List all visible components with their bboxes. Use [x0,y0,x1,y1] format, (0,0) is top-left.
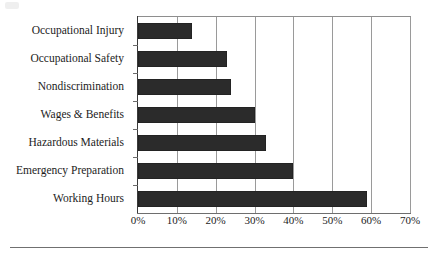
value-tick-label: 20% [206,214,226,226]
value-tick-label: 30% [244,214,264,226]
category-label: Nondiscrimination [0,72,132,100]
bar [138,23,192,38]
value-tick-label: 60% [361,214,381,226]
value-tick-label: 40% [283,214,303,226]
bar [138,79,231,94]
bar [138,135,266,150]
bar-row [138,107,410,122]
category-axis-labels: Occupational Injury Occupational Safety … [0,16,132,212]
category-label: Emergency Preparation [0,156,132,184]
plot-area [138,16,411,213]
category-label: Wages & Benefits [0,100,132,128]
bar [138,191,367,206]
value-tick-label: 0% [131,214,146,226]
bar [138,163,293,178]
category-label: Occupational Injury [0,16,132,44]
bar-row [138,79,410,94]
bar-row [138,51,410,66]
bar-series [138,17,410,213]
bar-row [138,191,410,206]
category-label: Working Hours [0,184,132,212]
value-tick-label: 70% [400,214,420,226]
bar-row [138,135,410,150]
bar-row [138,163,410,178]
bar [138,107,255,122]
category-label: Hazardous Materials [0,128,132,156]
bottom-divider-rule [10,247,428,248]
value-tick-label: 50% [322,214,342,226]
value-axis-tick-labels: 0%10%20%30%40%50%60%70% [138,214,410,230]
value-tick-label: 10% [167,214,187,226]
bar-row [138,23,410,38]
scan-artifact [5,2,19,9]
category-label: Occupational Safety [0,44,132,72]
gridline [410,17,411,213]
bar-chart-figure: Occupational Injury Occupational Safety … [0,0,438,261]
bar [138,51,227,66]
